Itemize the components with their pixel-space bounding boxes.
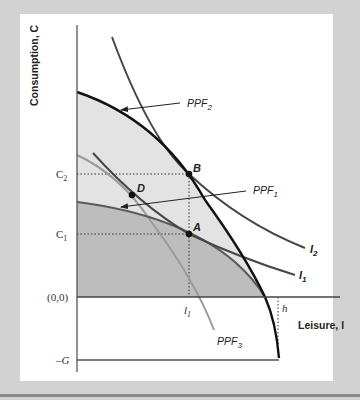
point-a-label: A: [192, 221, 201, 233]
point-a: [186, 231, 193, 238]
origin-label: (0,0): [47, 291, 68, 304]
point-d-label: D: [137, 182, 145, 194]
ppf2-label: PPF2: [187, 97, 212, 112]
point-b: [186, 171, 193, 178]
x-axis-title: Leisure, l: [298, 319, 344, 331]
c2-tick-label: C2: [56, 168, 67, 183]
point-d: [129, 192, 136, 199]
h-tick-label: h: [282, 302, 288, 314]
neg-g-label: –G: [55, 354, 70, 366]
y-axis-title: Consumption, C: [28, 25, 40, 106]
ppf3-label: PPF3: [217, 335, 242, 350]
ppf-diagram: B A D PPF2 PPF1 PPF3 I2 I1 C2 C1 (0,0) –…: [0, 0, 360, 400]
i2-label: I2: [310, 243, 318, 258]
ppf1-label: PPF1: [253, 184, 278, 199]
l1-tick-label: l1: [184, 304, 191, 319]
c1-tick-label: C1: [56, 228, 67, 243]
i1-label: I1: [299, 269, 307, 284]
point-b-label: B: [193, 162, 201, 174]
ppf2-arrow: [121, 103, 180, 110]
